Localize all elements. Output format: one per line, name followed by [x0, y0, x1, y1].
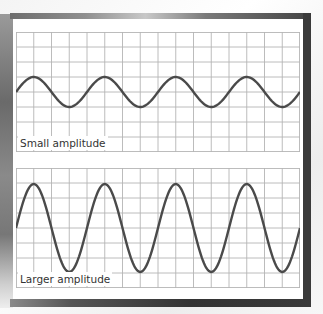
- larger-amplitude-graph: [16, 168, 300, 288]
- larger-amplitude-label: Larger amplitude: [18, 272, 112, 286]
- frame-left: [0, 14, 13, 308]
- larger-amplitude-plot: Larger amplitude: [16, 168, 300, 288]
- small-amplitude-plot: Small amplitude: [16, 32, 300, 152]
- frame-right: [303, 13, 311, 307]
- frame-bottom: [10, 299, 311, 307]
- small-amplitude-graph: [16, 32, 300, 152]
- small-amplitude-label: Small amplitude: [18, 136, 108, 150]
